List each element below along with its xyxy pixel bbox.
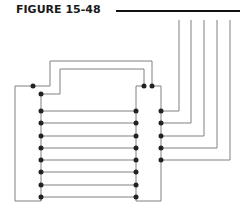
nodes (31, 84, 164, 200)
node-dot (39, 92, 44, 97)
node-dot (134, 195, 139, 200)
node-dot (134, 109, 139, 114)
wiring-diagram (0, 0, 246, 215)
lead-3 (161, 20, 204, 136)
right-bus (136, 86, 161, 201)
node-dot (159, 146, 164, 151)
node-dot (134, 121, 139, 126)
node-dot (150, 84, 155, 89)
node-dot (159, 121, 164, 126)
node-dot (39, 134, 44, 139)
center-bus (136, 86, 144, 197)
node-dot (159, 134, 164, 139)
node-dot (134, 170, 139, 175)
node-dot (39, 158, 44, 163)
node-dot (159, 158, 164, 163)
node-dot (39, 146, 44, 151)
node-dot (134, 183, 139, 188)
left-outer-wire (15, 86, 41, 201)
wires (15, 20, 230, 201)
node-dot (134, 134, 139, 139)
node-dot (159, 109, 164, 114)
lead-2 (161, 20, 191, 123)
node-dot (39, 109, 44, 114)
top-outer-loop (33, 61, 152, 86)
lead-4 (161, 20, 217, 148)
lead-5 (161, 20, 230, 160)
node-dot (39, 121, 44, 126)
node-dot (31, 84, 36, 89)
node-dot (39, 195, 44, 200)
node-dot (39, 170, 44, 175)
node-dot (134, 146, 139, 151)
node-dot (39, 183, 44, 188)
lead-1 (161, 20, 179, 111)
node-dot (142, 84, 147, 89)
node-dot (134, 158, 139, 163)
top-inner-loop (41, 69, 144, 94)
